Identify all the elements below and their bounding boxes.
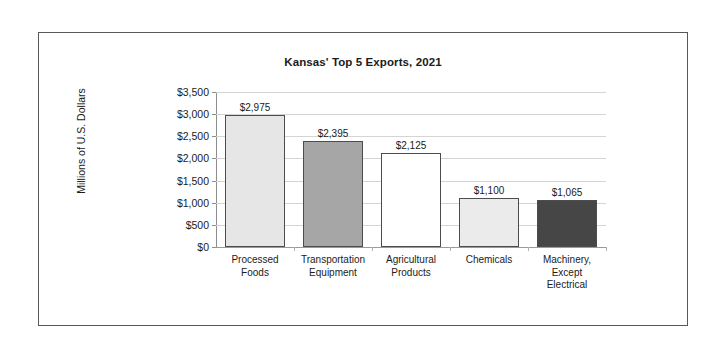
x-label-line: Except <box>552 267 583 278</box>
x-label-line: Chemicals <box>466 254 513 265</box>
y-tick-label: $3,500 <box>177 86 209 98</box>
y-tick-label: $2,500 <box>177 130 209 142</box>
x-label-line: Machinery, <box>543 254 591 265</box>
y-tick-mark <box>212 181 216 182</box>
x-label-line: Electrical <box>547 279 588 290</box>
bar[interactable]: $2,125 <box>381 153 441 247</box>
y-tick-mark <box>212 158 216 159</box>
y-tick-label: $1,000 <box>177 197 209 209</box>
y-tick-mark <box>212 136 216 137</box>
x-label-line: Agricultural <box>386 254 436 265</box>
bar-value-label: $2,125 <box>396 140 427 151</box>
x-label-line: Products <box>391 267 430 278</box>
y-tick-mark <box>212 92 216 93</box>
x-axis-separator-tick <box>372 247 373 251</box>
x-label-line: Foods <box>241 267 269 278</box>
y-tick-label: $2,000 <box>177 152 209 164</box>
x-label-line: Equipment <box>309 267 357 278</box>
x-axis-separator-tick <box>294 247 295 251</box>
y-tick-label: $1,500 <box>177 175 209 187</box>
y-tick-mark <box>212 225 216 226</box>
bar-value-label: $2,395 <box>318 128 349 139</box>
x-label-line: Transportation <box>301 254 365 265</box>
bar[interactable]: $1,065 <box>537 200 597 247</box>
x-axis-category-label: Chemicals <box>450 254 528 267</box>
y-tick-mark <box>212 114 216 115</box>
chart-title: Kansas' Top 5 Exports, 2021 <box>39 56 687 68</box>
bar[interactable]: $2,975 <box>225 115 285 247</box>
bar[interactable]: $1,100 <box>459 198 519 247</box>
y-axis-title: Millions of U.S. Dollars <box>75 61 87 221</box>
x-axis-separator-tick <box>450 247 451 251</box>
plot-area: $3,500$3,000$2,500$2,000$1,500$1,000$500… <box>216 92 606 247</box>
chart-frame: Kansas' Top 5 Exports, 2021 Millions of … <box>38 32 688 326</box>
y-tick-label: $0 <box>197 241 209 253</box>
y-axis-line <box>216 92 217 247</box>
x-axis-separator-tick <box>528 247 529 251</box>
y-tick-mark <box>212 203 216 204</box>
bar-value-label: $1,100 <box>474 185 505 196</box>
bar-value-label: $1,065 <box>552 187 583 198</box>
gridline <box>216 92 606 93</box>
bar-value-label: $2,975 <box>240 102 271 113</box>
gridline <box>216 247 606 248</box>
bar[interactable]: $2,395 <box>303 141 363 247</box>
y-tick-label: $3,000 <box>177 108 209 120</box>
x-axis-category-label: ProcessedFoods <box>216 254 294 279</box>
x-axis-separator-tick <box>606 247 607 251</box>
x-axis-category-label: AgriculturalProducts <box>372 254 450 279</box>
chart-page: Kansas' Top 5 Exports, 2021 Millions of … <box>0 0 727 351</box>
x-label-line: Processed <box>231 254 278 265</box>
y-tick-mark <box>212 247 216 248</box>
y-tick-label: $500 <box>186 219 209 231</box>
x-axis-category-label: TransportationEquipment <box>294 254 372 279</box>
x-axis-category-label: Machinery,ExceptElectrical <box>528 254 606 292</box>
